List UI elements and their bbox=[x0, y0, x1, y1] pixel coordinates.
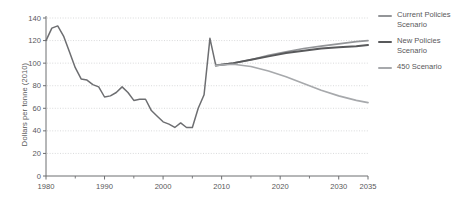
legend-swatch-new-policies bbox=[378, 41, 392, 43]
svg-text:140: 140 bbox=[28, 14, 41, 23]
svg-text:2000: 2000 bbox=[155, 182, 172, 191]
y-axis-label: Dollars per tonne (2010) bbox=[20, 25, 29, 185]
svg-text:0: 0 bbox=[37, 172, 41, 181]
chart-figure: Dollars per tonne (2010) 020406080100120… bbox=[0, 0, 465, 215]
svg-text:2010: 2010 bbox=[213, 182, 230, 191]
svg-text:1990: 1990 bbox=[96, 182, 113, 191]
svg-text:1980: 1980 bbox=[38, 182, 55, 191]
svg-text:2035: 2035 bbox=[360, 182, 377, 191]
legend-item-new-policies[interactable]: New Policies Scenario bbox=[378, 36, 465, 55]
legend-item-450-scenario[interactable]: 450 Scenario bbox=[378, 62, 465, 72]
svg-text:100: 100 bbox=[28, 59, 41, 68]
line-chart-plot: 0204060801001201401980199020002010202020… bbox=[0, 0, 380, 200]
svg-text:2030: 2030 bbox=[330, 182, 347, 191]
legend-swatch-current-policies bbox=[378, 15, 392, 17]
svg-text:20: 20 bbox=[33, 149, 41, 158]
svg-text:60: 60 bbox=[33, 104, 41, 113]
legend-swatch-450-scenario bbox=[378, 67, 392, 69]
svg-text:40: 40 bbox=[33, 126, 41, 135]
legend-label-new-policies: New Policies Scenario bbox=[397, 36, 465, 55]
svg-text:80: 80 bbox=[33, 81, 41, 90]
legend-item-current-policies[interactable]: Current Policies Scenario bbox=[378, 10, 465, 29]
chart-legend: Current Policies Scenario New Policies S… bbox=[378, 10, 465, 79]
svg-text:120: 120 bbox=[28, 36, 41, 45]
legend-label-450-scenario: 450 Scenario bbox=[397, 62, 442, 72]
legend-label-current-policies: Current Policies Scenario bbox=[397, 10, 465, 29]
svg-text:2020: 2020 bbox=[272, 182, 289, 191]
